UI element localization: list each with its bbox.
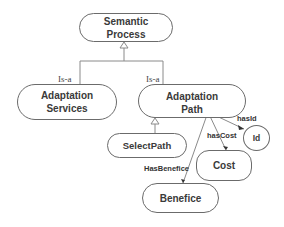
- generalization-arrow-icon: [120, 42, 128, 48]
- node-adaptation-services: Adaptation Services: [17, 84, 117, 120]
- node-cost: Cost: [196, 150, 252, 181]
- node-label: Id: [253, 132, 261, 145]
- node-label: SelectPath: [123, 139, 172, 152]
- edge-label-has-cost: hasCost: [207, 131, 237, 140]
- node-label: Adaptation Services: [41, 89, 93, 115]
- edge-label-has-id: hasId: [237, 114, 257, 123]
- node-label: Semantic Process: [104, 15, 148, 41]
- node-semantic-process: Semantic Process: [79, 13, 173, 42]
- arrow-head-icon: [238, 125, 244, 130]
- node-label: Cost: [213, 159, 235, 172]
- ontology-diagram: Semantic Process Adaptation Services Ada…: [0, 0, 284, 227]
- node-select-path: SelectPath: [107, 133, 187, 158]
- edge-label-isa-path: Is-a: [146, 74, 160, 84]
- generalization-arrow-icon: [151, 118, 159, 124]
- node-adaptation-path: Adaptation Path: [138, 84, 246, 118]
- node-label: Benefice: [160, 192, 202, 205]
- edge-label-isa-services: Is-a: [58, 74, 72, 84]
- node-benefice: Benefice: [142, 183, 219, 213]
- edge-label-has-benefice: HasBenefice: [144, 164, 189, 173]
- node-id: Id: [243, 125, 270, 151]
- node-label: Adaptation Path: [166, 90, 218, 116]
